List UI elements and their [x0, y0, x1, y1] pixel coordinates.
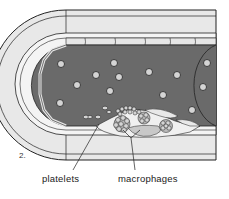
panel-number: 2.	[19, 151, 26, 160]
macrophage-cluster	[160, 120, 173, 133]
macrophages-label: macrophages	[118, 173, 178, 184]
endothelium	[66, 38, 216, 45]
platelets-label: platelets	[42, 173, 79, 184]
artery-diagram	[0, 0, 229, 199]
